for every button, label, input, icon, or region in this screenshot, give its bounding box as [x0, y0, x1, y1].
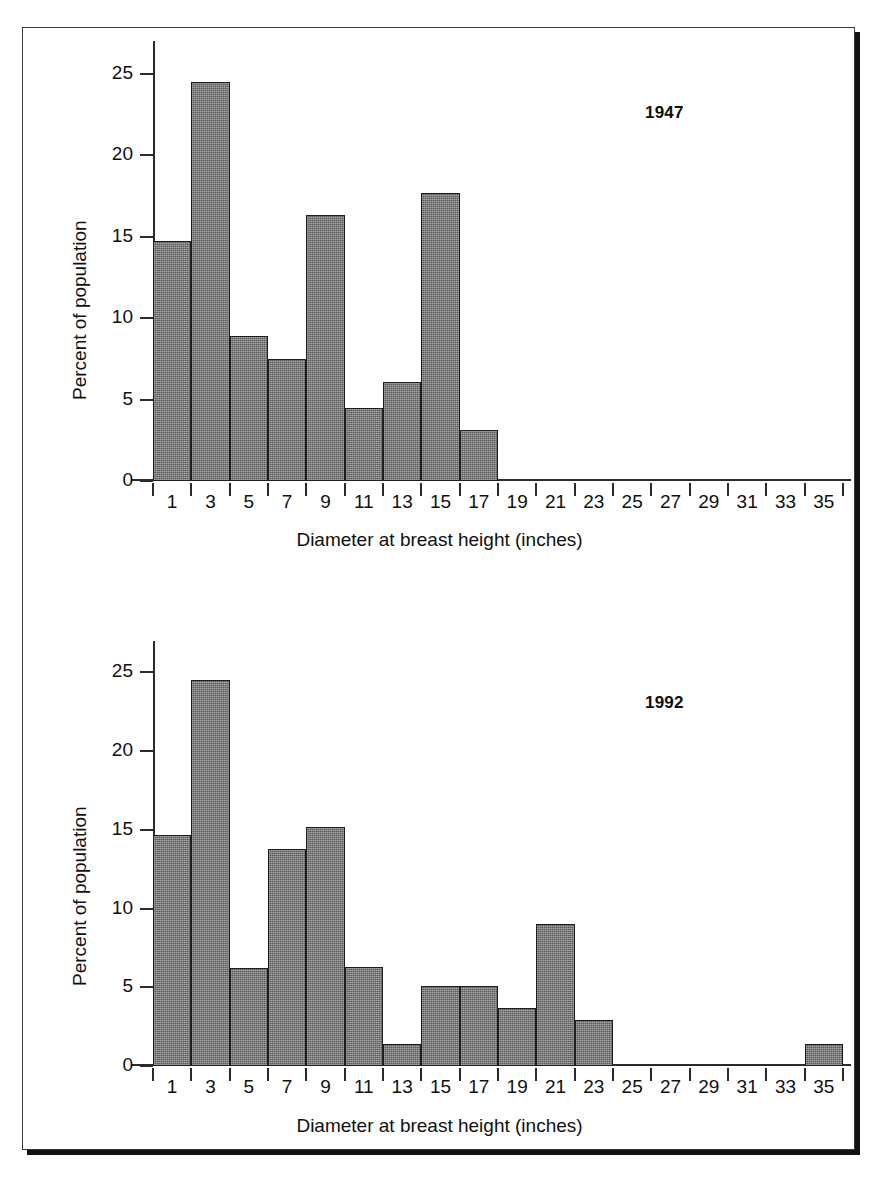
- x-tick-label-3: 3: [205, 1076, 216, 1097]
- y-tick-label: 0: [122, 470, 133, 490]
- y-tick-label: 5: [122, 389, 133, 409]
- bar: [230, 336, 268, 481]
- x-tick-label-35: 35: [813, 1076, 834, 1097]
- x-tick-mark: [689, 1068, 691, 1081]
- bar: [536, 924, 574, 1066]
- x-tick-mark: [190, 1068, 192, 1081]
- x-tick-label-33: 33: [775, 491, 796, 512]
- bar: [575, 1020, 613, 1066]
- x-tick-label-25: 25: [622, 491, 643, 512]
- bar: [460, 430, 498, 481]
- x-tick-label-19: 19: [507, 491, 528, 512]
- bar: [153, 835, 191, 1066]
- x-tick-mark: [190, 483, 192, 496]
- bar: [460, 986, 498, 1066]
- x-tick-mark: [497, 1068, 499, 1081]
- bar: [421, 193, 459, 481]
- x-tick-label-9: 9: [320, 1076, 331, 1097]
- x-tick-mark: [804, 1068, 806, 1081]
- x-tick-mark: [305, 483, 307, 496]
- y-tick-label: 10: [112, 898, 133, 918]
- y-tick-1947-20: 20: [140, 154, 153, 156]
- y-tick-label: 5: [122, 976, 133, 996]
- x-tick-label-5: 5: [244, 491, 255, 512]
- x-tick-mark: [574, 483, 576, 496]
- x-tick-label-15: 15: [430, 1076, 451, 1097]
- bar: [306, 827, 344, 1066]
- x-tick-mark: [267, 483, 269, 496]
- x-tick-mark: [344, 1068, 346, 1081]
- chart-panel-1947: 1947 Percent of population 0510152025 13…: [23, 28, 856, 568]
- y-tick-1992-10: 10: [140, 908, 153, 910]
- x-tick-label-17: 17: [468, 1076, 489, 1097]
- x-tick-label-15: 15: [430, 491, 451, 512]
- x-tick-label-29: 29: [698, 491, 719, 512]
- x-tick-mark: [152, 1068, 154, 1081]
- y-tick-1992-0: 0: [140, 1065, 153, 1067]
- x-tick-label-17: 17: [468, 491, 489, 512]
- x-tick-label-7: 7: [282, 491, 293, 512]
- x-tick-label-31: 31: [737, 1076, 758, 1097]
- x-tick-label-1: 1: [167, 1076, 178, 1097]
- x-tick-label-1: 1: [167, 491, 178, 512]
- y-axis-title-1992: Percent of population: [69, 806, 91, 986]
- x-tick-label-33: 33: [775, 1076, 796, 1097]
- y-tick-label: 10: [112, 307, 133, 327]
- bar: [230, 968, 268, 1066]
- x-tick-label-23: 23: [583, 1076, 604, 1097]
- bar: [268, 849, 306, 1066]
- bar: [498, 1008, 536, 1066]
- y-tick-1992-5: 5: [140, 986, 153, 988]
- x-tick-label-13: 13: [392, 491, 413, 512]
- x-tick-label-19: 19: [507, 1076, 528, 1097]
- x-tick-mark: [612, 1068, 614, 1081]
- x-tick-label-21: 21: [545, 1076, 566, 1097]
- x-tick-label-27: 27: [660, 491, 681, 512]
- x-tick-mark: [229, 1068, 231, 1081]
- y-tick-label: 0: [122, 1055, 133, 1075]
- bar: [383, 382, 421, 481]
- x-tick-mark: [152, 483, 154, 496]
- x-tick-label-3: 3: [205, 491, 216, 512]
- x-ticks-1947: 1357911131517192123252729313335: [153, 481, 843, 517]
- chart-panel-1992: 1992 Percent of population 0510152025 13…: [23, 628, 856, 1151]
- y-tick-1992-15: 15: [140, 829, 153, 831]
- bar: [345, 967, 383, 1066]
- x-tick-label-11: 11: [354, 491, 374, 512]
- bar: [345, 408, 383, 481]
- x-tick-mark: [842, 1068, 844, 1081]
- x-tick-label-25: 25: [622, 1076, 643, 1097]
- x-tick-mark: [765, 483, 767, 496]
- x-tick-label-21: 21: [545, 491, 566, 512]
- bar: [153, 241, 191, 481]
- y-tick-1947-15: 15: [140, 236, 153, 238]
- x-tick-label-7: 7: [282, 1076, 293, 1097]
- bar: [268, 359, 306, 481]
- figure-frame: 1947 Percent of population 0510152025 13…: [22, 27, 855, 1150]
- x-tick-label-23: 23: [583, 491, 604, 512]
- x-ticks-1992: 1357911131517192123252729313335: [153, 1066, 843, 1102]
- x-tick-mark: [727, 483, 729, 496]
- x-tick-mark: [804, 483, 806, 496]
- y-tick-label: 15: [112, 819, 133, 839]
- y-tick-label: 25: [112, 661, 133, 681]
- y-tick-1947-25: 25: [140, 73, 153, 75]
- y-tick-label: 20: [112, 144, 133, 164]
- x-tick-mark: [420, 483, 422, 496]
- y-tick-1947-10: 10: [140, 317, 153, 319]
- x-tick-label-5: 5: [244, 1076, 255, 1097]
- x-tick-mark: [612, 483, 614, 496]
- x-tick-mark: [344, 483, 346, 496]
- y-tick-label: 25: [112, 63, 133, 83]
- bar: [383, 1044, 421, 1066]
- y-tick-1947-5: 5: [140, 399, 153, 401]
- x-tick-mark: [420, 1068, 422, 1081]
- x-tick-mark: [650, 483, 652, 496]
- plot-area-1992: 0510152025: [153, 641, 843, 1066]
- x-tick-mark: [535, 483, 537, 496]
- x-tick-mark: [229, 483, 231, 496]
- plot-area-1947: 0510152025: [153, 41, 843, 481]
- y-tick-label: 15: [112, 226, 133, 246]
- x-tick-label-31: 31: [737, 491, 758, 512]
- x-tick-mark: [459, 1068, 461, 1081]
